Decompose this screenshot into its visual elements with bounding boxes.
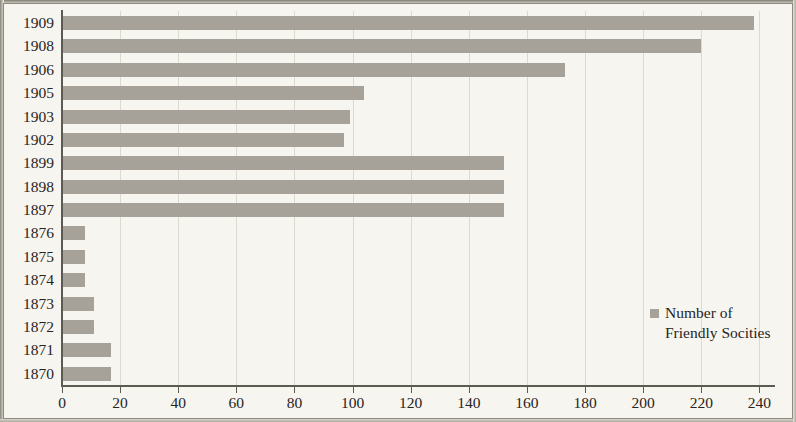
- x-axis-tick-label: 180: [573, 394, 596, 412]
- bar: [62, 133, 344, 147]
- chart-figure: 020406080100120140160180200220240 190919…: [0, 0, 796, 422]
- y-axis-tick-label: 1873: [0, 292, 54, 315]
- y-axis-tick-label: 1876: [0, 221, 54, 244]
- x-axis-tick-mark: [62, 387, 63, 393]
- bar-row: [62, 105, 774, 128]
- bar: [62, 110, 350, 124]
- bar: [62, 39, 701, 53]
- legend-label-line-1: Number of: [665, 303, 770, 323]
- y-axis-line: [61, 10, 63, 386]
- x-axis-tick-mark: [178, 387, 179, 393]
- bar: [62, 367, 111, 381]
- bar-row: [62, 198, 774, 221]
- bar: [62, 180, 504, 194]
- y-axis-tick-label: 1903: [0, 105, 54, 128]
- x-axis-tick-label: 80: [287, 394, 303, 412]
- bar: [62, 86, 364, 100]
- x-axis-tick-label: 120: [399, 394, 422, 412]
- y-axis-tick-label: 1874: [0, 268, 54, 291]
- y-axis-tick-label: 1908: [0, 34, 54, 57]
- x-axis-tick-label: 160: [515, 394, 538, 412]
- y-axis-tick-label: 1906: [0, 58, 54, 81]
- bar-row: [62, 34, 774, 57]
- bar: [62, 16, 754, 30]
- bar-row: [62, 175, 774, 198]
- bar-row: [62, 81, 774, 104]
- legend-label: Number of Friendly Socities: [665, 303, 770, 343]
- x-axis-line: [61, 385, 775, 387]
- legend-label-line-2: Friendly Socities: [665, 323, 770, 343]
- x-axis-tick-mark: [294, 387, 295, 393]
- x-axis-tick-mark: [759, 387, 760, 393]
- y-axis-tick-label: 1897: [0, 198, 54, 221]
- y-axis-tick-label: 1872: [0, 315, 54, 338]
- legend-swatch-icon: [650, 309, 659, 318]
- chart-legend: Number of Friendly Socities: [650, 303, 770, 343]
- x-axis-tick-label: 200: [632, 394, 655, 412]
- x-axis-tick-label: 20: [112, 394, 128, 412]
- x-axis-tick-label: 220: [690, 394, 713, 412]
- bar: [62, 343, 111, 357]
- bar-row: [62, 245, 774, 268]
- y-axis-tick-label: 1902: [0, 128, 54, 151]
- bar-row: [62, 128, 774, 151]
- x-axis-tick-label: 240: [748, 394, 771, 412]
- bar-row: [62, 268, 774, 291]
- y-axis-tick-label: 1870: [0, 362, 54, 385]
- bar: [62, 63, 565, 77]
- y-axis-tick-label: 1871: [0, 338, 54, 361]
- bar-row: [62, 362, 774, 385]
- bar: [62, 203, 504, 217]
- bar-row: [62, 221, 774, 244]
- bar-row: [62, 151, 774, 174]
- bar: [62, 320, 94, 334]
- bar: [62, 156, 504, 170]
- x-axis-tick-mark: [120, 387, 121, 393]
- x-axis-tick-mark: [527, 387, 528, 393]
- page-frame-left-edge: [0, 0, 4, 422]
- bar-row: [62, 58, 774, 81]
- x-axis-tick-mark: [236, 387, 237, 393]
- x-axis-tick-label: 0: [58, 394, 66, 412]
- bar: [62, 250, 85, 264]
- x-axis-tick-mark: [701, 387, 702, 393]
- x-axis-tick-label: 40: [170, 394, 186, 412]
- y-axis-tick-label: 1905: [0, 81, 54, 104]
- x-axis-tick-label: 100: [341, 394, 364, 412]
- bar: [62, 297, 94, 311]
- bar: [62, 273, 85, 287]
- x-axis-tick-mark: [411, 387, 412, 393]
- x-axis-tick-mark: [353, 387, 354, 393]
- y-axis-tick-label: 1898: [0, 175, 54, 198]
- x-axis-tick-label: 60: [229, 394, 245, 412]
- bar: [62, 226, 85, 240]
- bar-row: [62, 11, 774, 34]
- y-axis-tick-label: 1899: [0, 151, 54, 174]
- x-axis-tick-mark: [469, 387, 470, 393]
- page-frame-top-edge: [0, 0, 796, 4]
- x-axis-tick-mark: [585, 387, 586, 393]
- y-axis-tick-label: 1875: [0, 245, 54, 268]
- x-axis-tick-label: 140: [457, 394, 480, 412]
- y-axis-tick-label: 1909: [0, 11, 54, 34]
- x-axis-tick-mark: [643, 387, 644, 393]
